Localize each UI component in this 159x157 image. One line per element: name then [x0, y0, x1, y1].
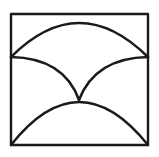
top-large-arc: [11, 23, 148, 57]
left-middle-arc: [11, 57, 79, 100]
right-middle-arc: [79, 57, 148, 100]
square-border: [11, 14, 148, 145]
bottom-arc: [11, 102, 148, 145]
figure-svg: Geometric arc figure in square A square …: [0, 0, 159, 157]
geometric-figure-canvas: Geometric arc figure in square A square …: [0, 0, 159, 157]
